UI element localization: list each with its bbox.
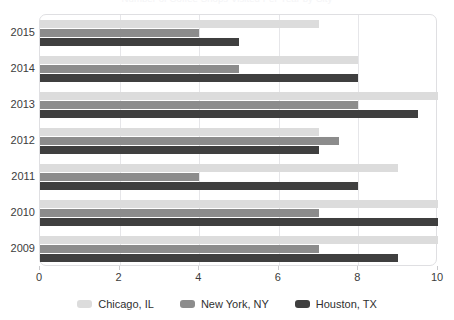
plot-area (39, 14, 437, 266)
x-axis: 0246810 (39, 266, 437, 288)
bar (40, 182, 358, 190)
chart-legend: Chicago, ILNew York, NYHouston, TX (0, 294, 454, 314)
y-tick-label: 2013 (0, 98, 35, 110)
legend-label: Houston, TX (316, 298, 377, 310)
legend-item[interactable]: Houston, TX (295, 298, 377, 310)
x-tick-label: 0 (36, 271, 42, 283)
x-tick-label: 8 (354, 271, 360, 283)
chart-title: Number of Coffee Shops Visited Per Year … (0, 0, 454, 5)
legend-item[interactable]: New York, NY (180, 298, 269, 310)
x-tick-label: 6 (275, 271, 281, 283)
y-tick-label: 2014 (0, 62, 35, 74)
bar (40, 101, 358, 109)
x-tick-mark (278, 266, 279, 270)
bar (40, 74, 358, 82)
y-tick-label: 2011 (0, 170, 35, 182)
legend-label: New York, NY (201, 298, 269, 310)
y-tick-label: 2012 (0, 134, 35, 146)
bar-group (40, 159, 436, 195)
bar-chart: Number of Coffee Shops Visited Per Year … (0, 0, 454, 320)
bar-group (40, 51, 436, 87)
bar (40, 236, 438, 244)
x-tick-mark (119, 266, 120, 270)
bar (40, 146, 319, 154)
bar (40, 65, 239, 73)
bar (40, 92, 438, 100)
x-tick-mark (198, 266, 199, 270)
x-tick-label: 2 (116, 271, 122, 283)
bar-group (40, 123, 436, 159)
bar-group (40, 15, 436, 51)
y-axis: 2015201420132012201120102009 (0, 14, 35, 266)
x-tick-label: 4 (195, 271, 201, 283)
y-tick-label: 2010 (0, 206, 35, 218)
bar (40, 209, 319, 217)
legend-swatch-icon (180, 300, 195, 308)
legend-swatch-icon (295, 300, 310, 308)
bar (40, 173, 199, 181)
x-tick-mark (357, 266, 358, 270)
bar (40, 110, 418, 118)
bar (40, 29, 199, 37)
y-tick-label: 2009 (0, 242, 35, 254)
bar-group (40, 195, 436, 231)
legend-swatch-icon (77, 300, 92, 308)
x-tick-mark (437, 266, 438, 270)
y-tick-label: 2015 (0, 26, 35, 38)
bar (40, 38, 239, 46)
bar (40, 20, 319, 28)
bar-group (40, 87, 436, 123)
bar (40, 128, 319, 136)
bar (40, 137, 339, 145)
bar (40, 245, 319, 253)
bar (40, 56, 358, 64)
bar (40, 254, 398, 262)
bar-group (40, 231, 436, 267)
bar (40, 200, 438, 208)
bars-layer (40, 15, 436, 265)
legend-label: Chicago, IL (98, 298, 154, 310)
bar (40, 218, 438, 226)
x-tick-label: 10 (431, 271, 443, 283)
bar (40, 164, 398, 172)
legend-item[interactable]: Chicago, IL (77, 298, 154, 310)
x-tick-mark (39, 266, 40, 270)
